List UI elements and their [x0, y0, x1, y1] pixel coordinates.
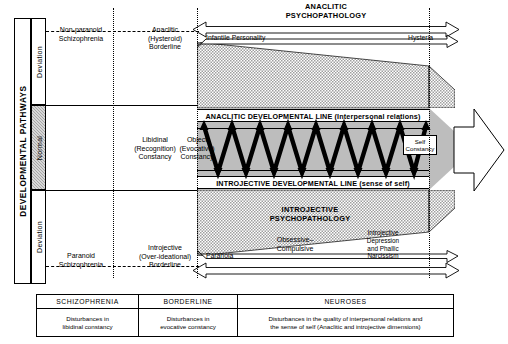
infantile-personality-label: Infantile Personality	[206, 34, 265, 41]
developmental-direction-arrow	[452, 105, 506, 195]
legend-body-neuroses: Disturbances in the quality of interpers…	[238, 309, 453, 336]
non-paranoid-schizophrenia-label: Non-paranoid Schizophrenia	[48, 26, 114, 43]
guide-line-schizophrenia	[113, 8, 114, 278]
legend-table: SCHIZOPHRENIA Disturbances in libidinal …	[36, 294, 454, 337]
band-normal-label: Normal	[35, 135, 42, 159]
self-constancy-text: Self Constancy	[404, 138, 436, 152]
legend-column-borderline: BORDERLINE Disturbances in evocative con…	[138, 295, 237, 336]
developmental-zigzag-wave	[198, 118, 438, 180]
anaclitic-borderline-label: Anaclitic (Hysteroid) Borderline	[132, 26, 198, 52]
introjective-depression-label: Introjective Depression and Phallic Narc…	[353, 229, 413, 260]
band-deviation-upper-label: Deviation	[35, 46, 42, 78]
legend-header-schizophrenia: SCHIZOPHRENIA	[37, 295, 138, 309]
introjective-psychopathology-text: INTROJECTIVE PSYCHOPATHOLOGY	[270, 205, 351, 223]
legend-column-schizophrenia: SCHIZOPHRENIA Disturbances in libidinal …	[37, 295, 138, 336]
anaclitic-psychopathology-wedge	[197, 42, 455, 108]
legend-header-borderline: BORDERLINE	[139, 295, 237, 309]
introjective-psychopathology-title: INTROJECTIVE PSYCHOPATHOLOGY	[240, 205, 380, 223]
anaclitic-psychopathology-text: ANACLITIC PSYCHOPATHOLOGY	[286, 2, 367, 20]
band-deviation-lower: Deviation	[31, 190, 46, 284]
band-deviation-upper: Deviation	[31, 18, 46, 105]
obsessive-compulsive-label: Obsessive– Compulsive	[260, 236, 330, 253]
normal-band-bottom-rule	[46, 190, 197, 191]
introjective-borderline-label: Introjective (Over-ideational) Borderlin…	[128, 244, 202, 270]
legend-body-borderline: Disturbances in evocative constancy	[139, 309, 237, 336]
guide-line-neuroses	[429, 8, 430, 278]
paranoid-schizophrenia-label: Paranoid Schizophrenia	[48, 252, 114, 269]
introjective-span-arrow	[192, 262, 460, 279]
self-constancy-label: Self Constancy	[403, 135, 437, 155]
band-normal: Normal	[31, 105, 46, 190]
anaclitic-psychopathology-title: ANACLITIC PSYCHOPATHOLOGY	[197, 2, 455, 20]
developmental-pathways-label: DEVELOPMENTAL PATHWAYS	[18, 85, 27, 216]
legend-header-neuroses: NEUROSES	[238, 295, 453, 309]
legend-column-neuroses: NEUROSES Disturbances in the quality of …	[237, 295, 453, 336]
band-deviation-lower-label: Deviation	[35, 221, 42, 253]
paranoia-label: Paranoia	[206, 252, 233, 259]
diagram-canvas: ANACLITIC DEVELOPMENTAL LINE (Interperso…	[0, 0, 508, 344]
legend-body-schizophrenia: Disturbances in libidinal constancy	[37, 309, 138, 336]
normal-band-top-rule	[46, 105, 197, 106]
developmental-pathways-axis: DEVELOPMENTAL PATHWAYS	[14, 18, 31, 284]
object-constancy-label: Object (Evocative) Constancy	[169, 136, 225, 162]
